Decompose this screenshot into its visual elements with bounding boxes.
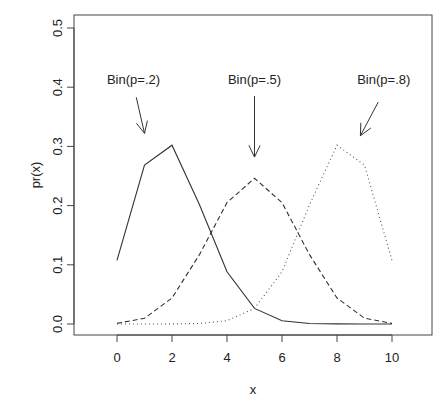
- x-axis: 0246810: [113, 335, 399, 365]
- annotation-label: Bin(p=.8): [357, 72, 410, 87]
- y-tick-label: 0.1: [50, 256, 65, 274]
- annotation-arrow: [360, 102, 378, 136]
- y-axis-title: pr(x): [28, 162, 43, 189]
- x-tick-label: 6: [278, 350, 285, 365]
- y-tick-label: 0.2: [50, 197, 65, 215]
- x-tick-label: 2: [168, 350, 175, 365]
- annotation-label: Bin(p=.5): [228, 72, 281, 87]
- series-lines: [117, 145, 392, 324]
- arrow-head: [255, 145, 261, 157]
- series-line-bin-p-8-: [117, 145, 392, 324]
- x-tick-label: 10: [385, 350, 399, 365]
- y-tick-label: 0.3: [50, 137, 65, 155]
- x-axis-title: x: [250, 382, 257, 397]
- series-line-bin-p-5-: [117, 178, 392, 323]
- x-tick-label: 4: [223, 350, 230, 365]
- series-line-bin-p-2-: [117, 145, 392, 324]
- y-tick-label: 0.0: [50, 315, 65, 333]
- plot-frame: [74, 15, 432, 335]
- binomial-chart: 0.00.10.20.30.40.5 0246810 pr(x) x Bin(p…: [0, 0, 446, 406]
- arrow-head: [145, 121, 148, 134]
- y-tick-label: 0.5: [50, 19, 65, 37]
- arrow-head: [249, 145, 255, 157]
- x-tick-label: 0: [113, 350, 120, 365]
- y-axis: 0.00.10.20.30.40.5: [50, 19, 74, 333]
- y-tick-label: 0.4: [50, 78, 65, 96]
- x-tick-label: 8: [333, 350, 340, 365]
- annotation-label: Bin(p=.2): [107, 72, 160, 87]
- annotations: Bin(p=.2)Bin(p=.5)Bin(p=.8): [107, 72, 410, 157]
